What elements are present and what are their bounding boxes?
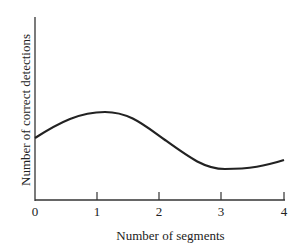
x-axis-label: Number of segments: [20, 228, 301, 244]
x-tick-label: 3: [211, 204, 231, 220]
x-tick-label: 1: [87, 204, 107, 220]
chart: 0 1 2 3 4 Number of segments Number of c…: [0, 0, 301, 250]
y-axis-label: Number of correct detections: [18, 20, 34, 200]
x-tick-label: 2: [149, 204, 169, 220]
x-tick-label: 4: [274, 204, 294, 220]
x-tick-label: 0: [25, 204, 45, 220]
data-curve: [35, 112, 284, 169]
